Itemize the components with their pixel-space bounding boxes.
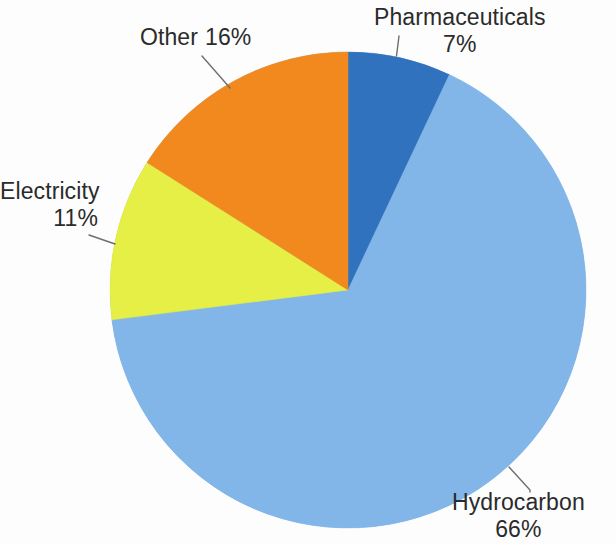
pie-chart-canvas: [0, 0, 616, 544]
pie-slice-group: [110, 52, 586, 528]
slice-label-other-percent: 16%: [205, 24, 251, 50]
pie-chart-figure: Pharmaceuticals 7% Other16% Electricity …: [0, 0, 616, 544]
leader-line-other: [202, 56, 230, 88]
slice-label-hydrocarbon-percent: 66%: [452, 516, 585, 543]
slice-label-electricity: Electricity 11%: [0, 178, 98, 232]
slice-label-electricity-name: Electricity: [0, 178, 98, 205]
slice-label-electricity-percent: 11%: [0, 205, 98, 232]
leader-line-electricity: [89, 235, 115, 244]
slice-label-other: Other16%: [140, 24, 251, 51]
slice-label-other-name: Other: [140, 24, 198, 50]
slice-label-hydrocarbon: Hydrocarbon 66%: [452, 489, 585, 543]
slice-label-pharmaceuticals-name: Pharmaceuticals: [374, 4, 546, 31]
slice-label-pharmaceuticals-percent: 7%: [374, 31, 546, 58]
slice-label-pharmaceuticals: Pharmaceuticals 7%: [374, 4, 546, 58]
slice-label-hydrocarbon-name: Hydrocarbon: [452, 489, 585, 516]
